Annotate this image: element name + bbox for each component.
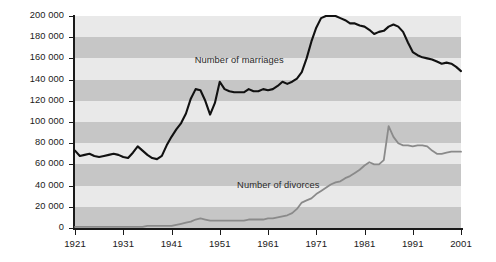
data-series-layer <box>0 0 496 262</box>
series-annotation-label: Number of marriages <box>195 55 284 65</box>
series-line-marriages <box>75 16 461 159</box>
series-annotation-label: Number of divorces <box>237 180 319 190</box>
chart-container: 020 00040 00060 00080 000100 000120 0001… <box>0 0 496 262</box>
series-line-divorces <box>75 126 461 227</box>
